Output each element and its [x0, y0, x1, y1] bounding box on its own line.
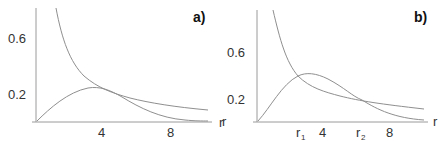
panel-a-y-tick-0.6: 0.6 [8, 31, 26, 46]
panel-a: 0.6 0.2 4 8 r a) [8, 8, 224, 140]
panel-a-label: a) [193, 9, 205, 25]
r2-subscript: 2 [361, 133, 366, 141]
panel-a-y-tick-0.2: 0.2 [8, 87, 26, 102]
panel-b: 0.6 0.2 r r 1 4 r 2 8 r b) [222, 9, 438, 141]
panel-b-label: b) [414, 9, 427, 25]
panel-b-y-tick-0.6: 0.6 [227, 45, 245, 60]
r1-subscript: 1 [301, 133, 306, 141]
panel-a-x-tick-4: 4 [98, 125, 105, 140]
panel-b-x-tick-8: 8 [386, 125, 393, 140]
panel-b-x-tick-4: 4 [319, 125, 326, 140]
panel-b-hump-curve [258, 74, 424, 121]
panel-a-x-tick-8: 8 [167, 125, 174, 140]
panel-a-decaying-curve [56, 8, 208, 110]
figure: 0.6 0.2 4 8 r a) 0.6 0.2 r r 1 4 r 2 8 r… [0, 0, 445, 141]
panel-b-x-axis-label: r [433, 114, 438, 129]
panel-b-decaying-curve [273, 10, 424, 109]
panel-a-hump-curve [37, 87, 208, 121]
panel-b-y-tick-0.2: 0.2 [227, 92, 245, 107]
panel-b-left-label: r [222, 114, 227, 129]
panel-b-x-tick-r2: r 2 [356, 125, 366, 141]
panel-b-x-tick-r1: r 1 [296, 125, 306, 141]
